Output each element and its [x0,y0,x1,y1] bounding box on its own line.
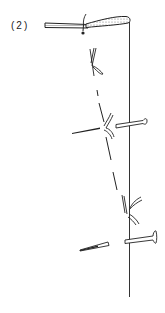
diagram-canvas [0,0,165,313]
needle-lower [80,242,109,251]
needle-upper [72,128,100,135]
stitch-mark-lower [122,195,142,225]
fabric-edge [45,16,130,28]
stitch-line [97,90,117,190]
stitch-mark-middle [104,113,114,139]
pin-upper [116,119,147,128]
sewing-diagram [0,0,165,313]
step-label: (2) [11,20,29,31]
stitch-mark-upper [90,48,103,76]
